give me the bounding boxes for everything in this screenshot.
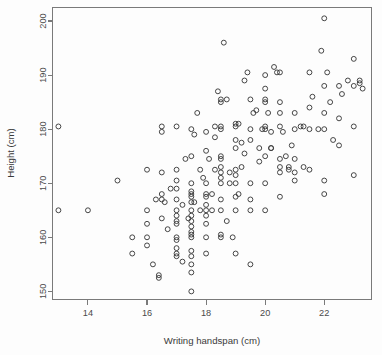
data-point <box>85 208 90 213</box>
data-point <box>351 56 356 61</box>
data-point <box>277 110 282 115</box>
data-point <box>310 94 315 99</box>
data-point <box>325 70 330 75</box>
data-point <box>248 138 253 143</box>
data-point <box>254 108 259 113</box>
data-point <box>189 289 194 294</box>
data-point <box>56 208 61 213</box>
data-point <box>227 170 232 175</box>
data-point <box>233 138 238 143</box>
data-point <box>251 110 256 115</box>
data-point <box>218 181 223 186</box>
data-point <box>292 156 297 161</box>
data-point <box>277 70 282 75</box>
data-point <box>322 110 327 115</box>
data-point <box>322 16 327 21</box>
data-point <box>204 213 209 218</box>
data-point <box>292 127 297 132</box>
data-point <box>159 129 164 134</box>
data-point <box>233 167 238 172</box>
data-point <box>198 167 203 172</box>
data-point <box>266 110 271 115</box>
data-point <box>195 110 200 115</box>
data-point <box>189 270 194 275</box>
x-tick-label: 22 <box>319 308 329 318</box>
data-point <box>174 124 179 129</box>
data-point <box>272 65 277 70</box>
scatter-plot-canvas: 150160170180190200 1416182022 Writing ha… <box>0 0 382 355</box>
data-point <box>165 227 170 232</box>
data-point <box>351 173 356 178</box>
data-point <box>159 216 164 221</box>
data-point <box>174 186 179 191</box>
data-point <box>207 156 212 161</box>
data-point <box>233 146 238 151</box>
data-point <box>263 73 268 78</box>
data-point <box>242 151 247 156</box>
data-point <box>248 208 253 213</box>
data-point <box>331 138 336 143</box>
data-points-layer <box>56 16 365 294</box>
data-point <box>224 219 229 224</box>
data-point <box>257 146 262 151</box>
data-point <box>322 178 327 183</box>
data-point <box>280 129 285 134</box>
x-tick-label: 14 <box>83 308 93 318</box>
data-point <box>242 78 247 83</box>
data-point <box>245 70 250 75</box>
data-point <box>248 181 253 186</box>
data-point <box>248 127 253 132</box>
data-point <box>189 224 194 229</box>
data-point <box>337 143 342 148</box>
data-point <box>145 208 150 213</box>
data-point <box>204 202 209 207</box>
data-point <box>189 219 194 224</box>
data-point <box>322 192 327 197</box>
data-point <box>277 156 282 161</box>
data-point <box>189 181 194 186</box>
data-point <box>210 192 215 197</box>
data-point <box>145 243 150 248</box>
x-axis-ticks: 1416182022 <box>83 300 330 318</box>
x-tick-label: 20 <box>260 308 270 318</box>
data-point <box>269 146 274 151</box>
data-point <box>186 216 191 221</box>
data-point <box>307 127 312 132</box>
data-point <box>150 262 155 267</box>
data-point <box>174 178 179 183</box>
data-point <box>153 197 158 202</box>
data-point <box>218 197 223 202</box>
data-point <box>145 221 150 226</box>
data-point <box>307 70 312 75</box>
data-point <box>218 165 223 170</box>
data-point <box>174 197 179 202</box>
data-point <box>189 248 194 253</box>
data-point <box>130 235 135 240</box>
data-point <box>204 251 209 256</box>
y-axis-ticks: 150160170180190200 <box>39 13 53 299</box>
y-tick-label: 170 <box>39 176 49 191</box>
data-point <box>174 167 179 172</box>
data-point <box>322 127 327 132</box>
data-point <box>360 86 365 91</box>
data-point <box>213 135 218 140</box>
data-point <box>248 262 253 267</box>
data-point <box>130 251 135 256</box>
data-point <box>210 208 215 213</box>
data-point <box>159 170 164 175</box>
data-point <box>307 167 312 172</box>
data-point <box>316 127 321 132</box>
data-point <box>174 208 179 213</box>
scatter-plot-figure: 150160170180190200 1416182022 Writing ha… <box>0 0 382 355</box>
data-point <box>239 165 244 170</box>
data-point <box>277 194 282 199</box>
data-point <box>189 254 194 259</box>
data-point <box>328 100 333 105</box>
data-point <box>174 213 179 218</box>
data-point <box>174 246 179 251</box>
data-point <box>233 181 238 186</box>
data-point <box>218 175 223 180</box>
data-point <box>213 124 218 129</box>
data-point <box>236 192 241 197</box>
data-point <box>233 194 238 199</box>
